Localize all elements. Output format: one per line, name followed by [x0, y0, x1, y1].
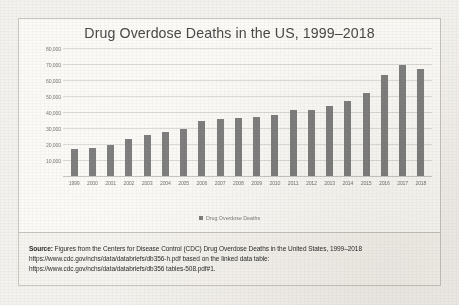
- x-axis-tick-label: 2010: [266, 180, 284, 186]
- bar-slot: [394, 49, 412, 176]
- bar[interactable]: [326, 106, 333, 176]
- bar-slot: [83, 49, 101, 176]
- x-axis-tick-label: 2002: [120, 180, 138, 186]
- bar[interactable]: [198, 121, 205, 176]
- source-line-2: https://www.cdc.gov/nchs/data/databriefs…: [29, 254, 430, 264]
- bar-slot: [266, 49, 284, 176]
- x-axis-tick-label: 2007: [211, 180, 229, 186]
- x-axis-tick-label: 2018: [412, 180, 430, 186]
- bar[interactable]: [271, 115, 278, 176]
- legend-label: Drug Overdose Deaths: [206, 215, 260, 221]
- y-axis-tick-label: 70,000: [46, 62, 61, 68]
- bar-slot: [138, 49, 156, 176]
- bar[interactable]: [107, 145, 114, 176]
- y-axis-tick-label: 40,000: [46, 110, 61, 116]
- y-axis-tick-label: 60,000: [46, 78, 61, 84]
- bar[interactable]: [253, 117, 260, 176]
- bar[interactable]: [217, 119, 224, 176]
- source-label: Source:: [29, 245, 53, 252]
- bar[interactable]: [308, 110, 315, 176]
- bar-slot: [284, 49, 302, 176]
- legend-swatch-icon: [199, 216, 203, 220]
- x-axis-tick-label: 2005: [175, 180, 193, 186]
- bar-slot: [321, 49, 339, 176]
- plot-area: 10,00020,00030,00040,00050,00060,00070,0…: [19, 49, 440, 199]
- bar[interactable]: [235, 118, 242, 176]
- bar[interactable]: [399, 65, 406, 177]
- bar-slot: [357, 49, 375, 176]
- bar[interactable]: [125, 139, 132, 176]
- bar-slot: [412, 49, 430, 176]
- bar[interactable]: [162, 132, 169, 176]
- chart-container: Drug Overdose Deaths in the US, 1999–201…: [19, 19, 440, 232]
- source-line-1: Source: Figures from the Centers for Dis…: [29, 244, 430, 254]
- chart-legend: Drug Overdose Deaths: [19, 215, 440, 221]
- y-axis-tick-label: 20,000: [46, 142, 61, 148]
- bar-slot: [375, 49, 393, 176]
- bar-slot: [193, 49, 211, 176]
- x-axis-tick-label: 2009: [248, 180, 266, 186]
- x-axis-tick-label: 2017: [394, 180, 412, 186]
- bar-slot: [302, 49, 320, 176]
- bar-slot: [120, 49, 138, 176]
- gridlines-and-bars: [63, 49, 432, 177]
- x-axis-tick-label: 2001: [102, 180, 120, 186]
- bar-slot: [229, 49, 247, 176]
- y-axis-tick-label: 30,000: [46, 126, 61, 132]
- bar-slot: [211, 49, 229, 176]
- bar-slot: [102, 49, 120, 176]
- x-axis-tick-label: 1999: [65, 180, 83, 186]
- bar[interactable]: [180, 129, 187, 176]
- bar-series: [63, 49, 432, 176]
- x-axis-tick-label: 2011: [284, 180, 302, 186]
- x-axis-tick-label: 2015: [357, 180, 375, 186]
- x-axis-tick-label: 2004: [156, 180, 174, 186]
- bar-slot: [65, 49, 83, 176]
- x-axis-tick-label: 2003: [138, 180, 156, 186]
- x-axis-tick-label: 2012: [302, 180, 320, 186]
- x-axis-tick-label: 2006: [193, 180, 211, 186]
- document-card: Drug Overdose Deaths in the US, 1999–201…: [18, 18, 441, 286]
- source-note: Source: Figures from the Centers for Dis…: [19, 233, 440, 285]
- x-axis-baseline: [63, 176, 432, 177]
- source-line-1-text: Figures from the Centers for Disease Con…: [53, 245, 362, 252]
- x-axis-tick-label: 2016: [375, 180, 393, 186]
- y-axis-tick-label: 80,000: [46, 46, 61, 52]
- bar[interactable]: [89, 148, 96, 176]
- y-axis-tick-label: 50,000: [46, 94, 61, 100]
- chart-title: Drug Overdose Deaths in the US, 1999–201…: [19, 19, 440, 41]
- bar[interactable]: [71, 149, 78, 176]
- bar-slot: [156, 49, 174, 176]
- x-axis-tick-label: 2000: [83, 180, 101, 186]
- y-axis: 10,00020,00030,00040,00050,00060,00070,0…: [25, 49, 61, 177]
- bar[interactable]: [363, 93, 370, 176]
- bar-slot: [175, 49, 193, 176]
- bar[interactable]: [290, 110, 297, 176]
- x-axis: 1999200020012002200320042005200620072008…: [63, 180, 432, 186]
- x-axis-tick-label: 2013: [321, 180, 339, 186]
- bar[interactable]: [417, 69, 424, 176]
- bar[interactable]: [344, 101, 351, 176]
- bar-slot: [248, 49, 266, 176]
- bar[interactable]: [144, 135, 151, 176]
- x-axis-tick-label: 2014: [339, 180, 357, 186]
- source-line-3: https://www.cdc.gov/nchs/data/databriefs…: [29, 264, 430, 274]
- x-axis-tick-label: 2008: [229, 180, 247, 186]
- y-axis-tick-label: 10,000: [46, 158, 61, 164]
- bar-slot: [339, 49, 357, 176]
- bar[interactable]: [381, 75, 388, 176]
